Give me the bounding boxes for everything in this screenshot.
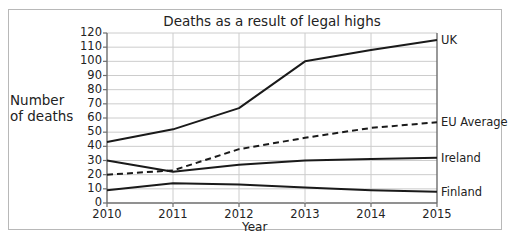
series-label-ireland: Ireland [441, 153, 481, 164]
y-axis-tick-label: 40 [72, 140, 102, 151]
series-line-finland [107, 183, 437, 192]
series-label-finland: Finland [441, 187, 482, 198]
x-axis-label: Year [242, 220, 267, 234]
x-axis-tick-label: 2013 [275, 207, 335, 221]
chart-series-lines [107, 33, 437, 203]
series-line-ireland [107, 158, 437, 172]
y-axis-tick-label: 70 [72, 98, 102, 109]
series-end-labels: UKEU AverageIrelandFinland [441, 33, 513, 203]
chart-title: Deaths as a result of legal highs [107, 13, 437, 29]
x-axis-tick-label: 2014 [341, 207, 401, 221]
y-axis-tick-label: 80 [72, 84, 102, 95]
series-line-eu-average [107, 122, 437, 174]
y-axis-tick-label: 60 [72, 112, 102, 123]
x-axis-tick-labels: 201020112012201320142015 [107, 207, 447, 223]
y-axis-tick-label: 10 [72, 183, 102, 194]
y-axis-tick-labels: 0102030405060708090100110120 [70, 33, 102, 203]
y-axis-tick-label: 120 [72, 27, 102, 38]
x-axis-tick-label: 2015 [407, 207, 467, 221]
series-label-uk: UK [441, 35, 457, 46]
y-axis-tick-label: 110 [72, 41, 102, 52]
y-axis-tick-label: 90 [72, 70, 102, 81]
y-axis-tick-label: 20 [72, 169, 102, 180]
series-label-eu-average: EU Average [441, 117, 508, 128]
y-axis-tick-label: 50 [72, 126, 102, 137]
x-axis-tick-label: 2012 [209, 207, 269, 221]
chart-figure: Deaths as a result of legal highs Number… [0, 0, 514, 240]
y-axis-tick-label: 30 [72, 155, 102, 166]
plot-area [107, 33, 437, 203]
x-axis-tick-label: 2011 [143, 207, 203, 221]
x-axis-tick-label: 2010 [77, 207, 137, 221]
y-axis-tick-label: 100 [72, 55, 102, 66]
